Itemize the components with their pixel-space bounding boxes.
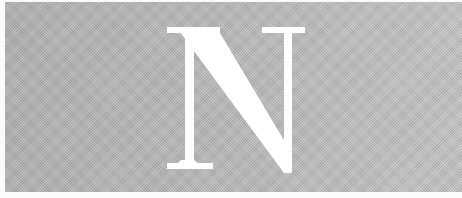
halftone-gray-panel: N xyxy=(5,2,462,192)
letter-n-glyph xyxy=(5,2,462,192)
